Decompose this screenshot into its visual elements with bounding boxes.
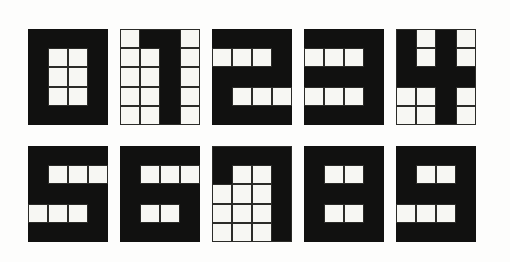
glyph-cell: [180, 184, 200, 203]
glyph-cell: [120, 165, 140, 184]
glyph-cell: [456, 48, 476, 67]
glyph-cell: [344, 146, 364, 165]
glyph-cell: [212, 165, 232, 184]
glyph-cell: [88, 184, 108, 203]
glyph-cell: [140, 165, 160, 184]
glyph-cell: [272, 146, 292, 165]
glyph-cell: [88, 67, 108, 86]
glyph-cell: [212, 87, 232, 106]
glyph-cell: [364, 204, 384, 223]
glyph-cell: [324, 87, 344, 106]
glyph-cell: [232, 146, 252, 165]
glyph-cell: [456, 29, 476, 48]
glyph-cell: [68, 106, 88, 125]
glyph-cell: [416, 165, 436, 184]
glyph-cell: [212, 223, 232, 242]
glyph-cell: [364, 48, 384, 67]
glyph-cell: [160, 67, 180, 86]
glyph-cell: [436, 48, 456, 67]
glyph-cell: [120, 146, 140, 165]
glyph-cell: [272, 67, 292, 86]
glyph-cell: [324, 184, 344, 203]
glyph-cell: [396, 165, 416, 184]
glyph-cell: [252, 29, 272, 48]
glyph-cell: [324, 48, 344, 67]
glyph-cell: [180, 87, 200, 106]
glyph-cell: [180, 223, 200, 242]
glyph-cell: [252, 165, 272, 184]
glyph-cell: [68, 165, 88, 184]
glyph-cell: [68, 223, 88, 242]
glyph-cell: [212, 106, 232, 125]
glyph-cell: [456, 67, 476, 86]
glyph-cell: [396, 106, 416, 125]
glyph-cell: [212, 204, 232, 223]
glyph-cell: [28, 165, 48, 184]
glyph-cell: [324, 146, 344, 165]
glyph-cell: [28, 184, 48, 203]
glyph-cell: [212, 146, 232, 165]
glyph-cell: [416, 87, 436, 106]
glyph-cell: [48, 204, 68, 223]
glyph-cell: [252, 146, 272, 165]
glyph-cell: [28, 87, 48, 106]
glyph-cell: [180, 146, 200, 165]
glyph-cell: [416, 204, 436, 223]
digit-two: [212, 29, 292, 125]
glyph-cell: [88, 87, 108, 106]
glyph-row-top: [28, 29, 488, 125]
glyph-cell: [456, 146, 476, 165]
glyph-cell: [436, 87, 456, 106]
glyph-cell: [364, 184, 384, 203]
glyph-cell: [416, 106, 436, 125]
glyph-cell: [180, 106, 200, 125]
glyph-cell: [396, 204, 416, 223]
glyph-cell: [456, 204, 476, 223]
glyph-cell: [272, 29, 292, 48]
glyph-cell: [456, 106, 476, 125]
glyph-cell: [416, 67, 436, 86]
glyph-cell: [364, 106, 384, 125]
glyph-cell: [68, 87, 88, 106]
glyph-cell: [48, 106, 68, 125]
glyph-cell: [416, 48, 436, 67]
glyph-cell: [120, 87, 140, 106]
glyph-cell: [48, 184, 68, 203]
glyph-cell: [232, 184, 252, 203]
glyph-cell: [252, 67, 272, 86]
glyph-cell: [232, 48, 252, 67]
glyph-cell: [396, 223, 416, 242]
glyph-cell: [88, 146, 108, 165]
glyph-cell: [272, 87, 292, 106]
glyph-cell: [140, 29, 160, 48]
glyph-cell: [140, 106, 160, 125]
glyph-cell: [344, 184, 364, 203]
digit-one: [120, 29, 200, 125]
glyph-cell: [324, 67, 344, 86]
glyph-cell: [232, 87, 252, 106]
glyph-cell: [252, 48, 272, 67]
glyph-cell: [180, 48, 200, 67]
glyph-cell: [304, 48, 324, 67]
glyph-cell: [396, 184, 416, 203]
glyph-cell: [364, 67, 384, 86]
glyph-cell: [456, 165, 476, 184]
glyph-cell: [364, 223, 384, 242]
glyph-cell: [272, 48, 292, 67]
glyph-cell: [160, 87, 180, 106]
glyph-cell: [180, 67, 200, 86]
glyph-cell: [304, 106, 324, 125]
digit-zero: [28, 29, 108, 125]
glyph-cell: [140, 67, 160, 86]
glyph-cell: [272, 106, 292, 125]
glyph-cell: [304, 165, 324, 184]
glyph-cell: [304, 184, 324, 203]
glyph-cell: [160, 48, 180, 67]
glyph-cell: [416, 184, 436, 203]
glyph-cell: [344, 48, 364, 67]
glyph-cell: [48, 29, 68, 48]
glyph-cell: [436, 106, 456, 125]
glyph-cell: [436, 146, 456, 165]
glyph-row-bottom: [28, 146, 488, 242]
glyph-cell: [212, 29, 232, 48]
